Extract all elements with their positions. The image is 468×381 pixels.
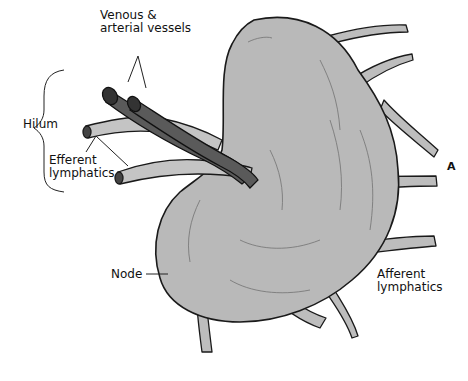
lymph-node-diagram — [0, 0, 468, 381]
afferent-label-line2: lymphatics — [377, 281, 443, 294]
node-label: Node — [111, 268, 142, 281]
efferent-label-line2: lymphatics — [49, 167, 115, 180]
panel-letter: A — [447, 160, 456, 173]
vessels-label-line2: arterial vessels — [100, 22, 191, 35]
hilum-label: Hilum — [23, 118, 58, 131]
